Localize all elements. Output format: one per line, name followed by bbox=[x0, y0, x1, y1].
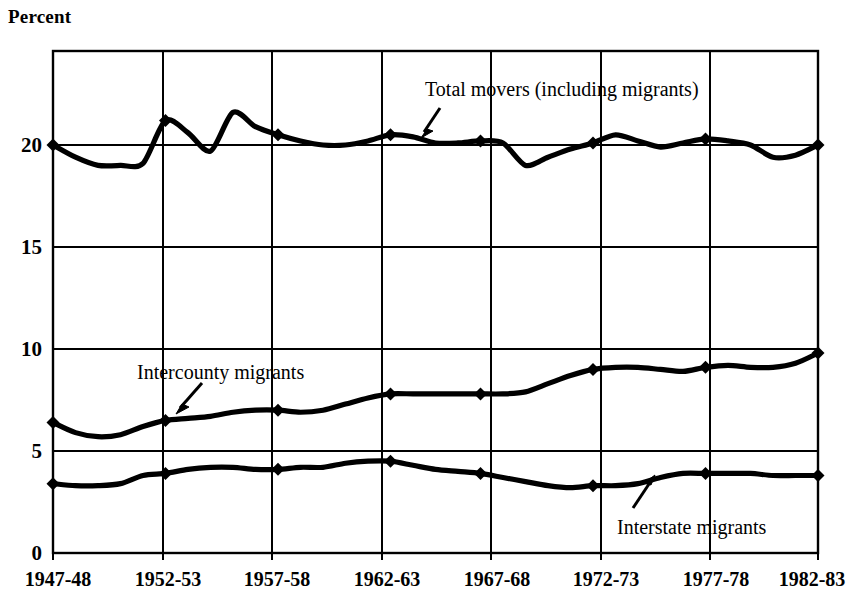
annotation-arrows bbox=[176, 108, 655, 508]
series-paths bbox=[53, 112, 818, 488]
data-point-marker bbox=[272, 463, 285, 476]
data-point-marker bbox=[587, 479, 600, 492]
data-point-marker bbox=[474, 467, 487, 480]
data-point-marker bbox=[384, 387, 397, 400]
arrow-head-intercounty bbox=[176, 404, 189, 414]
arrow-head-total-movers bbox=[421, 129, 433, 138]
data-point-marker bbox=[47, 477, 60, 490]
data-point-marker bbox=[272, 404, 285, 417]
data-point-marker bbox=[587, 363, 600, 376]
data-point-marker bbox=[159, 414, 172, 427]
data-point-marker bbox=[384, 128, 397, 141]
data-point-marker bbox=[474, 387, 487, 400]
arrow-line-total-movers bbox=[424, 108, 440, 132]
chart-canvas bbox=[0, 0, 852, 603]
plot-frame bbox=[53, 51, 818, 553]
data-point-marker bbox=[812, 469, 825, 482]
data-point-marker bbox=[272, 128, 285, 141]
horizontal-gridlines bbox=[53, 145, 818, 451]
vertical-gridlines bbox=[163, 51, 710, 553]
data-point-marker bbox=[159, 467, 172, 480]
data-point-marker bbox=[384, 455, 397, 468]
migration-rates-line-chart: Percent 20 15 10 5 0 1947-48 1952-53 195… bbox=[0, 0, 852, 603]
